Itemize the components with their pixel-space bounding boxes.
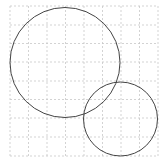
small-circle (84, 82, 158, 156)
large-circle (10, 8, 120, 118)
grid (10, 6, 158, 156)
circles-diagram (0, 0, 159, 164)
circles (10, 8, 158, 157)
